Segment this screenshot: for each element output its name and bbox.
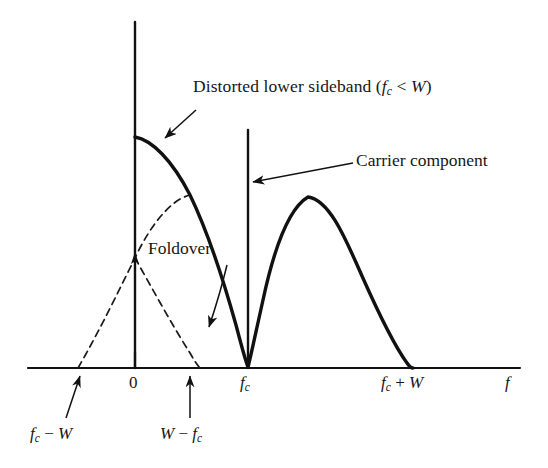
foldover-leader-arrow xyxy=(209,265,227,327)
spectrum-figure: Distorted lower sideband (fc < W) Carrie… xyxy=(0,0,548,468)
carrier-leader-arrow xyxy=(253,163,353,182)
title-text-suffix: ) xyxy=(426,76,432,96)
axis-tick-label-fc-minus-w: fc − W xyxy=(30,425,72,445)
annotation-carrier-component: Carrier component xyxy=(356,152,488,170)
foldover-dashed-falling-curve xyxy=(135,258,200,368)
tick-fcmw-symbol-w: W xyxy=(58,424,72,443)
title-symbol-w: W xyxy=(411,76,426,96)
title-text-prefix: Distorted lower sideband ( xyxy=(193,76,382,96)
tick-fcpw-operator: + xyxy=(391,373,409,392)
axis-label-frequency: f xyxy=(505,374,510,391)
tick-fcmw-operator: − xyxy=(40,424,58,443)
tick-wmfc-symbol-w: W xyxy=(160,424,174,443)
axis-tick-label-w-minus-fc: W − fc xyxy=(160,425,202,445)
title-relation: < xyxy=(392,76,411,96)
annotation-distorted-lower-sideband: Distorted lower sideband (fc < W) xyxy=(193,78,432,98)
tick-wmfc-operator: − xyxy=(174,424,192,443)
axis-tick-label-zero: 0 xyxy=(129,374,138,391)
tick-arrow-fc-minus-w xyxy=(66,376,80,418)
spectrum-plot-canvas xyxy=(0,0,548,468)
title-leader-arrow xyxy=(165,110,196,138)
axis-tick-label-fc-plus-w: fc + W xyxy=(381,374,423,394)
annotation-foldover: Foldover xyxy=(148,240,211,258)
axis-tick-label-fc: fc xyxy=(240,374,250,394)
tick-fc-subscript: c xyxy=(245,381,250,394)
tick-fcpw-symbol-w: W xyxy=(409,373,423,392)
tick-wmfc-subscript: c xyxy=(197,432,202,445)
